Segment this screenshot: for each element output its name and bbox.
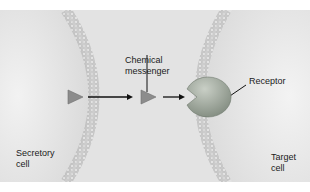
- label-line: messenger: [125, 66, 170, 77]
- target-cell-label: Target cell: [271, 152, 296, 174]
- chemical-messenger-label: Chemical messenger: [125, 55, 170, 77]
- receptor-icon: [187, 77, 231, 117]
- label-line: cell: [271, 163, 296, 174]
- label-line: Receptor: [249, 76, 286, 86]
- diagram-panel: Chemical messenger Receptor Secretory ce…: [0, 10, 310, 182]
- messenger-icon: [141, 90, 156, 104]
- receptor-label: Receptor: [249, 76, 286, 87]
- arrow-icon: [163, 94, 185, 100]
- label-line: cell: [16, 159, 55, 170]
- label-line: Target: [271, 152, 296, 163]
- label-line: Secretory: [16, 148, 55, 159]
- secretory-cell-label: Secretory cell: [16, 148, 55, 170]
- label-line: Chemical: [125, 55, 170, 66]
